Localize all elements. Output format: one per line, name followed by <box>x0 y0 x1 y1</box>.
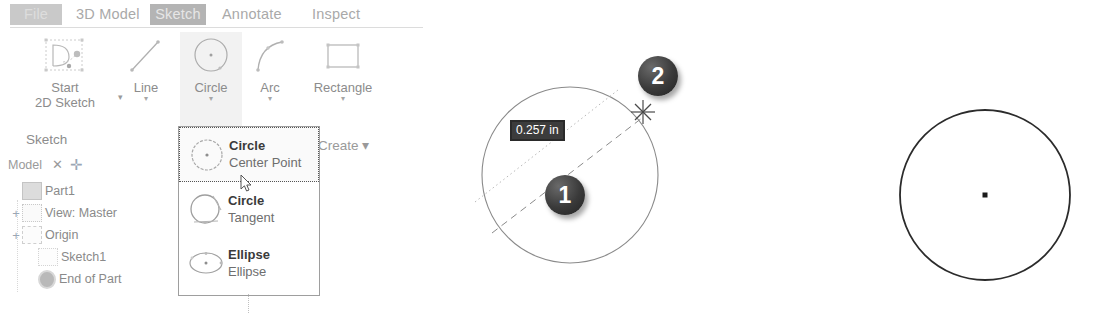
arrow-cursor <box>240 174 253 193</box>
button-label-line: Line <box>118 80 174 95</box>
line-icon <box>118 32 174 80</box>
menu-item-title: Ellipse <box>228 247 270 263</box>
crosshair-cursor <box>631 100 655 124</box>
tab-3d-model[interactable]: 3D Model <box>70 4 146 25</box>
tree-item-label: Origin <box>45 227 78 243</box>
model-browser: Model ✕ ✛ Part1 + View: Master + Origin <box>0 158 180 308</box>
tree-expander[interactable]: + <box>10 228 22 243</box>
view-icon <box>22 204 42 222</box>
circle-icon <box>180 32 242 80</box>
button-label-line1: Start <box>17 80 113 95</box>
menu-item-text: Ellipse Ellipse <box>228 247 270 280</box>
step-badge-1: 1 <box>545 175 585 215</box>
tab-sketch[interactable]: Sketch <box>150 4 206 25</box>
tree-item-sketch1[interactable]: Sketch1 <box>0 246 180 268</box>
tree-item-part1[interactable]: Part1 <box>0 180 180 202</box>
add-icon[interactable]: ✛ <box>70 156 83 174</box>
menu-item-title: Circle <box>229 138 301 154</box>
panel-label-sketch: Sketch <box>26 132 67 147</box>
button-circle[interactable]: Circle ▾ <box>180 32 242 132</box>
circle-dropdown-menu: Circle Center Point Circle Tangent <box>178 126 320 296</box>
tree-expander[interactable]: + <box>10 206 22 221</box>
create-text: Create <box>318 138 359 153</box>
diagram-circle-finished <box>890 95 1090 285</box>
tree-item-origin[interactable]: + Origin <box>0 224 180 246</box>
screenshot-root: File 3D Model Sketch Annotate Inspect <box>0 0 1101 313</box>
tab-file[interactable]: File <box>10 4 62 25</box>
chevron-down-icon[interactable]: ▾ <box>180 95 242 103</box>
button-line[interactable]: Line ▾ <box>118 32 174 103</box>
tab-inspect[interactable]: Inspect <box>306 4 366 25</box>
menu-item-text: Circle Center Point <box>229 138 301 171</box>
browser-tab-model[interactable]: Model <box>8 158 42 172</box>
menu-item-ellipse[interactable]: Ellipse Ellipse <box>179 236 319 290</box>
dimension-input-box[interactable]: 0.257 in <box>510 120 565 141</box>
chevron-down-icon[interactable]: ▾ <box>118 95 174 103</box>
sketch-icon <box>38 248 58 266</box>
chevron-down-icon[interactable]: ▾ <box>244 95 296 103</box>
button-arc[interactable]: Arc ▾ <box>244 32 296 103</box>
rectangle-icon <box>300 32 386 80</box>
button-label-arc: Arc <box>244 80 296 95</box>
button-start-2d-sketch[interactable]: Start 2D Sketch ▾ <box>17 32 113 110</box>
center-point-marker <box>983 193 988 198</box>
tab-annotate[interactable]: Annotate <box>216 4 288 25</box>
model-tree: Part1 + View: Master + Origin Sketch1 <box>0 180 180 290</box>
menu-item-text: Circle Tangent <box>228 193 274 226</box>
part-icon <box>22 182 42 200</box>
start-2d-sketch-text: 2D Sketch <box>35 95 95 110</box>
ribbon-tab-divider <box>10 27 423 28</box>
menu-item-subtitle: Center Point <box>229 154 301 171</box>
dropdown-stem-line <box>248 294 250 313</box>
ribbon-tab-strip: File 3D Model Sketch Annotate Inspect <box>10 4 425 28</box>
chevron-down-icon[interactable]: ▾ <box>300 95 386 103</box>
finished-circle-svg <box>890 95 1090 285</box>
sketch-plane-icon <box>17 32 113 80</box>
tree-item-view-master[interactable]: + View: Master <box>0 202 180 224</box>
origin-folder-icon <box>22 226 42 244</box>
menu-item-subtitle: Ellipse <box>228 263 270 280</box>
ellipse-icon <box>184 241 228 285</box>
tree-item-end-of-part[interactable]: End of Part <box>0 268 180 290</box>
chevron-down-icon[interactable]: ▾ <box>362 138 369 153</box>
tree-item-label: View: Master <box>45 205 117 221</box>
tree-item-label: Part1 <box>45 183 75 199</box>
close-icon[interactable]: ✕ <box>52 157 63 172</box>
diagram-circle-in-progress: 0.257 in 1 2 <box>470 40 710 290</box>
step-badge-2: 2 <box>638 56 678 96</box>
tree-item-label: Sketch1 <box>61 249 106 265</box>
menu-item-subtitle: Tangent <box>228 209 274 226</box>
menu-item-title: Circle <box>228 193 274 209</box>
button-label-line2: 2D Sketch ▾ <box>17 95 113 110</box>
end-of-part-icon <box>38 271 56 287</box>
tree-item-label: End of Part <box>59 271 122 287</box>
panel-label-create[interactable]: Create ▾ <box>318 137 369 153</box>
circle-tangent-icon <box>184 187 228 231</box>
button-label-circle: Circle <box>180 80 242 95</box>
arc-icon <box>244 32 296 80</box>
button-label-rectangle: Rectangle <box>300 80 386 95</box>
button-rectangle[interactable]: Rectangle ▾ <box>300 32 386 103</box>
circle-center-point-icon <box>185 133 229 177</box>
